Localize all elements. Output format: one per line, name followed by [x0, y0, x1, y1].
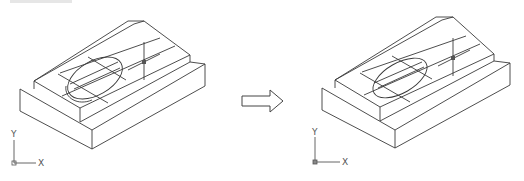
- transition-arrow-icon: [240, 88, 286, 114]
- ucs-y-label: Y: [10, 129, 17, 139]
- base-slab: [322, 63, 510, 148]
- ucs-y-label: Y: [311, 127, 318, 137]
- center-point-marker: [451, 56, 455, 60]
- ucs-icon: Y X: [311, 127, 348, 167]
- base-slab: [20, 64, 205, 149]
- after-model-drawing: Y X: [300, 0, 524, 181]
- center-point-marker: [142, 60, 146, 64]
- ucs-x-label: X: [342, 157, 348, 167]
- ucs-x-label: X: [38, 158, 44, 168]
- before-model-drawing: Y X: [0, 0, 220, 181]
- before-model-view: Y X: [0, 0, 220, 181]
- after-model-view: Y X: [300, 0, 524, 181]
- top-block: [34, 21, 190, 103]
- ucs-icon: Y X: [10, 129, 44, 168]
- top-block: [335, 17, 494, 102]
